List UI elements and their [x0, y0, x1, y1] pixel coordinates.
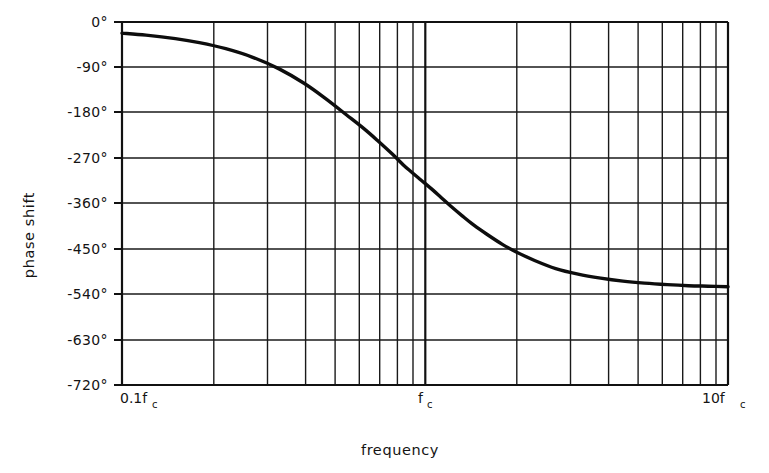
- y-tick-label-450: -450°: [67, 241, 108, 257]
- y-tick-label-630: -630°: [67, 332, 108, 348]
- x-tick-label-10fc-sub: c: [740, 399, 746, 410]
- y-tick-label-360: -360°: [67, 195, 108, 211]
- y-tick-label-0: 0°: [91, 14, 108, 30]
- y-tick-label-90: -90°: [77, 59, 108, 75]
- x-axis-title: frequency: [361, 442, 439, 458]
- y-axis-title: phase shift: [21, 192, 37, 278]
- x-tick-label-0p1fc-main: 0.1f: [120, 390, 148, 406]
- y-tick-label-720: -720°: [67, 377, 108, 393]
- chart-svg: 0° -90° -180° -270° -360° -450° -540° -6…: [0, 0, 769, 473]
- x-tick-label-10fc-main: 10f: [702, 390, 726, 406]
- chart-background: [0, 0, 769, 473]
- x-tick-label-fc-sub: c: [427, 399, 433, 410]
- x-tick-label-0p1fc-sub: c: [152, 399, 158, 410]
- y-tick-label-270: -270°: [67, 150, 108, 166]
- y-tick-label-540: -540°: [67, 286, 108, 302]
- y-tick-label-180: -180°: [67, 104, 108, 120]
- phase-shift-bode-chart: 0° -90° -180° -270° -360° -450° -540° -6…: [0, 0, 769, 473]
